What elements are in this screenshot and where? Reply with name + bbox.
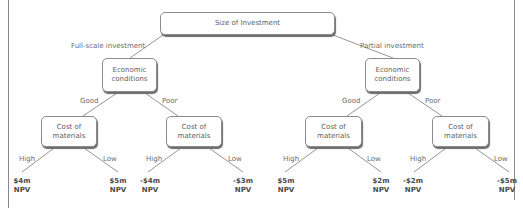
npv-value: -$2m bbox=[398, 177, 428, 186]
edge-label-good-right: Good bbox=[342, 97, 360, 105]
node-cost-of-materials-2: Cost of materials bbox=[166, 116, 222, 147]
node-cost-of-materials-1: Cost of materials bbox=[41, 116, 97, 147]
leaf-npv: -$2m NPV bbox=[398, 177, 428, 195]
npv-value: -$3m bbox=[228, 177, 258, 186]
edge-label-high: High bbox=[410, 155, 426, 163]
node-economic-conditions-right: Economic conditions bbox=[365, 58, 420, 92]
node-cost-of-materials-3: Cost of materials bbox=[305, 116, 362, 147]
leaf-npv: $5m NPV bbox=[103, 177, 133, 195]
npv-label: NPV bbox=[398, 186, 428, 195]
npv-label: NPV bbox=[135, 186, 165, 195]
npv-label: NPV bbox=[7, 186, 37, 195]
node-label: Economic bbox=[113, 66, 147, 75]
node-label: Cost of bbox=[57, 123, 82, 132]
node-label: Cost of bbox=[448, 123, 473, 132]
node-size-of-investment: Size of Investment bbox=[160, 12, 335, 35]
node-economic-conditions-left: Economic conditions bbox=[102, 58, 157, 92]
node-label: materials bbox=[53, 132, 86, 141]
edge-label-poor-left: Poor bbox=[162, 97, 177, 105]
leaf-npv: $2m NPV bbox=[366, 177, 396, 195]
leaf-npv: -$5m NPV bbox=[492, 177, 522, 195]
edge-label-low: Low bbox=[103, 155, 117, 163]
npv-value: $5m bbox=[103, 177, 133, 186]
leaf-npv: $4m NPV bbox=[7, 177, 37, 195]
edge-label-low: Low bbox=[494, 155, 508, 163]
npv-label: NPV bbox=[228, 186, 258, 195]
edge-label-low: Low bbox=[228, 155, 242, 163]
node-label: Cost of bbox=[321, 123, 346, 132]
npv-value: $2m bbox=[366, 177, 396, 186]
edge-label-high: High bbox=[146, 155, 162, 163]
node-label: Economic bbox=[376, 66, 410, 75]
npv-label: NPV bbox=[492, 186, 522, 195]
edge-label-good-left: Good bbox=[80, 97, 98, 105]
node-label: conditions bbox=[111, 75, 147, 84]
npv-value: $4m bbox=[7, 177, 37, 186]
node-label: Cost of bbox=[182, 123, 207, 132]
leaf-npv: $5m NPV bbox=[271, 177, 301, 195]
node-label: Size of Investment bbox=[215, 19, 280, 28]
leaf-npv: -$4m NPV bbox=[135, 177, 165, 195]
npv-value: -$4m bbox=[135, 177, 165, 186]
leaf-npv: -$3m NPV bbox=[228, 177, 258, 195]
edge-label-partial: Partial investment bbox=[360, 42, 424, 50]
edge-label-high: High bbox=[283, 155, 299, 163]
edge-label-high: High bbox=[19, 155, 35, 163]
npv-label: NPV bbox=[366, 186, 396, 195]
edge-label-full-scale: Full-scale investment bbox=[71, 42, 145, 50]
node-label: materials bbox=[444, 132, 477, 141]
node-label: conditions bbox=[374, 75, 410, 84]
edge-label-low: Low bbox=[367, 155, 381, 163]
node-label: materials bbox=[317, 132, 350, 141]
npv-value: $5m bbox=[271, 177, 301, 186]
npv-label: NPV bbox=[103, 186, 133, 195]
node-cost-of-materials-4: Cost of materials bbox=[432, 116, 489, 147]
npv-label: NPV bbox=[271, 186, 301, 195]
node-label: materials bbox=[178, 132, 211, 141]
edge-label-poor-right: Poor bbox=[425, 97, 440, 105]
npv-value: -$5m bbox=[492, 177, 522, 186]
